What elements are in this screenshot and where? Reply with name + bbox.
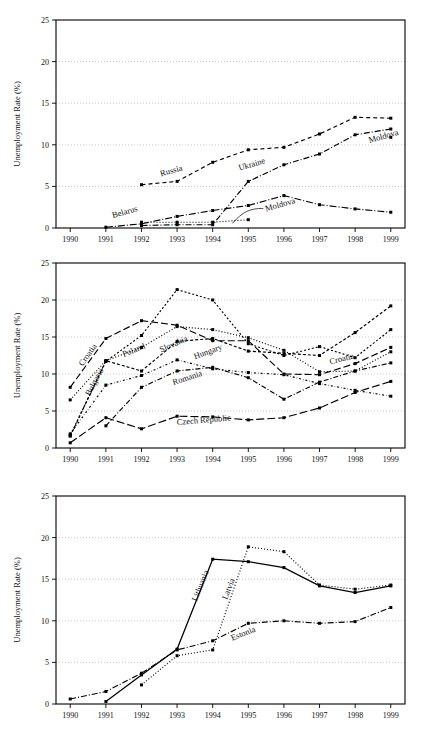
x-tick-label: 1999 [383, 235, 399, 244]
data-point-marker [282, 398, 285, 401]
chart-svg-3: 0510152025199019911992199319941995199619… [0, 480, 423, 732]
data-point-marker [211, 648, 214, 651]
y-tick-label: 15 [41, 333, 49, 342]
data-point-marker [247, 148, 250, 151]
x-tick-label: 1994 [205, 235, 221, 244]
x-tick-label: 1995 [240, 455, 256, 464]
series-line [142, 547, 391, 685]
data-point-marker [318, 354, 321, 357]
data-point-marker [140, 374, 143, 377]
data-point-marker [282, 163, 285, 166]
series-annotation-label: Poland [121, 340, 147, 358]
data-point-marker [211, 366, 214, 369]
series-line [70, 360, 391, 434]
data-point-marker [354, 391, 357, 394]
data-point-marker [354, 133, 357, 136]
data-point-marker [354, 588, 357, 591]
data-point-marker [176, 180, 179, 183]
data-point-marker [389, 361, 392, 364]
data-point-marker [354, 370, 357, 373]
data-point-marker [247, 350, 250, 353]
data-point-marker [318, 133, 321, 136]
x-tick-label: 1991 [98, 711, 114, 720]
data-point-marker [318, 407, 321, 410]
data-point-marker [389, 606, 392, 609]
y-tick-label: 0 [45, 700, 49, 709]
data-point-marker [104, 690, 107, 693]
data-point-marker [282, 146, 285, 149]
y-tick-label: 10 [41, 617, 49, 626]
data-point-marker [176, 221, 179, 224]
series-annotation-label: Lithuania [189, 568, 211, 602]
series-annotation-label: Czech Republic [176, 412, 231, 427]
data-point-marker [104, 416, 107, 419]
chart-panel-1: 0510152025199019911992199319941995199619… [0, 0, 423, 250]
x-tick-label: 1996 [276, 235, 292, 244]
data-point-marker [211, 299, 214, 302]
y-tick-label: 10 [41, 370, 49, 379]
x-tick-label: 1992 [133, 711, 149, 720]
x-tick-label: 1994 [205, 455, 221, 464]
data-point-marker [211, 209, 214, 212]
series-line [70, 381, 391, 442]
data-point-marker [318, 203, 321, 206]
y-tick-label: 25 [41, 16, 49, 25]
data-point-marker [69, 386, 72, 389]
data-point-marker [318, 622, 321, 625]
data-point-marker [282, 550, 285, 553]
y-tick-label: 20 [41, 58, 49, 67]
x-tick-label: 1999 [383, 711, 399, 720]
x-tick-label: 1995 [240, 711, 256, 720]
y-axis-title: Unemployment Rate (%) [12, 313, 22, 399]
data-point-marker [282, 352, 285, 355]
data-point-marker [389, 117, 392, 120]
y-tick-label: 15 [41, 99, 49, 108]
data-point-marker [247, 180, 250, 183]
data-point-marker [211, 639, 214, 642]
y-tick-label: 20 [41, 296, 49, 305]
data-point-marker [140, 683, 143, 686]
series-line [70, 608, 391, 700]
series-annotation-label: Croatia [328, 351, 355, 367]
x-tick-label: 1994 [205, 711, 221, 720]
x-tick-label: 1999 [383, 455, 399, 464]
chart-svg-2: 0510152025199019911992199319941995199619… [0, 255, 423, 477]
data-point-marker [140, 386, 143, 389]
chart-panel-2: 0510152025199019911992199319941995199619… [0, 255, 423, 477]
x-tick-label: 1997 [312, 235, 328, 244]
x-tick-label: 1991 [98, 235, 114, 244]
data-point-marker [318, 381, 321, 384]
x-tick-label: 1997 [312, 455, 328, 464]
y-axis-title: Unemployment Rate (%) [12, 81, 22, 167]
data-point-marker [247, 339, 250, 342]
data-point-marker [389, 304, 392, 307]
data-point-marker [69, 441, 72, 444]
x-tick-label: 1992 [133, 455, 149, 464]
series-line [106, 196, 391, 228]
data-point-marker [211, 328, 214, 331]
data-point-marker [389, 211, 392, 214]
data-point-marker [176, 324, 179, 327]
x-tick-label: 1996 [276, 455, 292, 464]
data-point-marker [176, 215, 179, 218]
data-point-marker [140, 427, 143, 430]
figure-page: 0510152025199019911992199319941995199619… [0, 0, 423, 732]
data-point-marker [354, 620, 357, 623]
data-point-marker [354, 591, 357, 594]
data-point-marker [69, 398, 72, 401]
x-tick-label: 1992 [133, 235, 149, 244]
y-tick-label: 25 [41, 259, 49, 268]
y-tick-label: 5 [45, 658, 49, 667]
data-point-marker [140, 672, 143, 675]
data-point-marker [176, 654, 179, 657]
data-point-marker [247, 336, 250, 339]
data-point-marker [354, 207, 357, 210]
data-point-marker [389, 346, 392, 349]
data-point-marker [354, 116, 357, 119]
data-point-marker [176, 370, 179, 373]
x-tick-label: 1996 [276, 711, 292, 720]
series-annotation-label: Belarus [111, 203, 139, 220]
data-point-marker [140, 370, 143, 373]
data-point-marker [318, 370, 321, 373]
data-point-marker [176, 648, 179, 651]
